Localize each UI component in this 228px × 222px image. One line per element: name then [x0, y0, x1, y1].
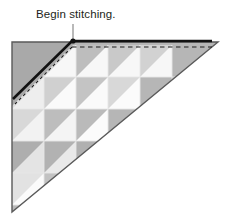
stitch-start-marker: [70, 38, 75, 43]
hst-triangle: [44, 173, 76, 205]
figure-canvas: Begin stitching.: [0, 0, 228, 222]
quilt-diagram-illustration: [0, 0, 228, 222]
